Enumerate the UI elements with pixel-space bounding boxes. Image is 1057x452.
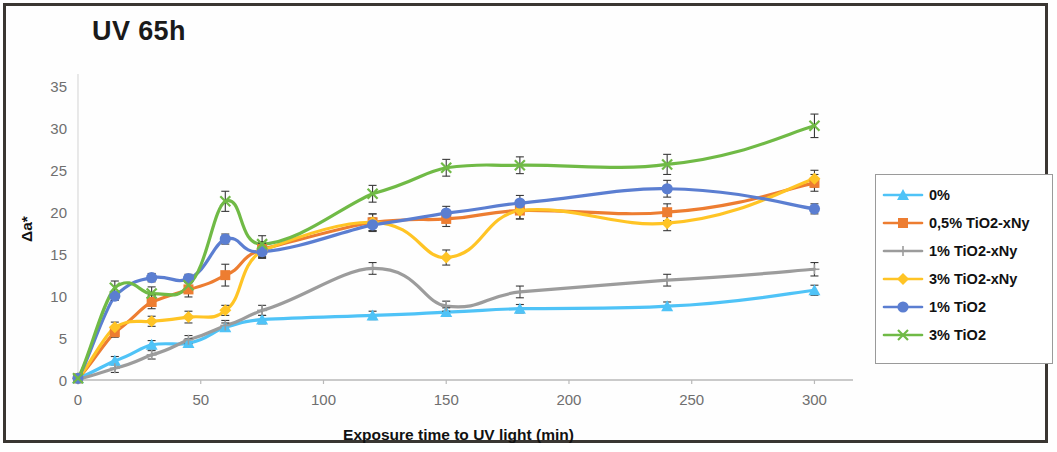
y-axis-tick-label: 20 [50, 204, 67, 221]
data-marker-diamond [146, 315, 158, 327]
data-marker-plus [809, 264, 819, 274]
data-marker-plus [662, 275, 672, 285]
error-bars [111, 285, 819, 365]
legend-item-3-tio2-xny[interactable]: 3% TiO2-xNy [882, 265, 1052, 293]
legend-item-label: 1% TiO2-xNy [929, 243, 1017, 259]
y-axis-title: Δa* [18, 215, 35, 242]
data-marker-circle [441, 207, 452, 218]
legend-item-0-5-tio2-xny[interactable]: 0,5% TiO2-xNy [882, 209, 1052, 237]
data-marker-circle [662, 183, 673, 194]
legend-marker-plus-icon [882, 243, 924, 259]
chart-frame: UV 65h 05101520253035050100150200250300E… [3, 3, 1048, 443]
y-axis-tick-label: 30 [50, 120, 67, 137]
legend-item-label: 0,5% TiO2-xNy [929, 215, 1029, 231]
x-axis-tick-label: 50 [192, 391, 209, 408]
y-axis-tick-label: 35 [50, 78, 67, 95]
legend-item-3-tio2[interactable]: 3% TiO2 [882, 321, 1052, 349]
y-axis-tick-label: 0 [59, 372, 67, 389]
data-marker-diamond [897, 273, 909, 285]
y-axis-tick-label: 15 [50, 246, 67, 263]
legend-marker-cross-icon [882, 327, 924, 343]
data-marker-circle [809, 203, 820, 214]
data-marker-diamond [182, 311, 194, 323]
series-markers [72, 284, 820, 383]
x-axis-tick-label: 100 [311, 391, 336, 408]
series-markers [72, 183, 820, 384]
data-marker-diamond [440, 252, 452, 264]
y-axis-tick-label: 25 [50, 162, 67, 179]
legend-item-label: 3% TiO2-xNy [929, 271, 1017, 287]
data-marker-circle [220, 233, 231, 244]
legend-marker-circle-icon [882, 299, 924, 315]
legend-item-0[interactable]: 0% [882, 181, 1052, 209]
data-marker-plus [147, 350, 157, 360]
legend-item-label: 1% TiO2 [929, 299, 986, 315]
y-axis-tick-label: 10 [50, 288, 67, 305]
data-marker-plus [515, 287, 525, 297]
legend-item-label: 3% TiO2 [929, 327, 986, 343]
data-marker-circle [514, 197, 525, 208]
data-marker-plus [368, 263, 378, 273]
legend-item-1-tio2[interactable]: 1% TiO2 [882, 293, 1052, 321]
y-axis-tick-label: 5 [59, 330, 67, 347]
x-axis-tick-label: 150 [434, 391, 459, 408]
x-axis-tick-label: 0 [74, 391, 82, 408]
legend-marker-square-icon [882, 215, 924, 231]
data-marker-square [898, 218, 908, 228]
x-axis-tick-label: 300 [802, 391, 827, 408]
data-marker-circle [367, 219, 378, 230]
data-marker-diamond [661, 217, 673, 229]
x-axis-tick-label: 200 [556, 391, 581, 408]
chart-canvas: UV 65h 05101520253035050100150200250300E… [6, 6, 1045, 440]
data-marker-plus [898, 246, 908, 256]
legend-marker-diamond-icon [882, 271, 924, 287]
x-axis-title: Exposure time to UV light (min) [343, 426, 574, 443]
data-marker-circle [146, 272, 157, 283]
legend-item-label: 0% [929, 187, 950, 203]
legend-marker-triangle-icon [882, 187, 924, 203]
data-marker-circle [897, 301, 908, 312]
data-marker-square [220, 270, 230, 280]
data-marker-square [662, 207, 672, 217]
legend-item-1-tio2-xny[interactable]: 1% TiO2-xNy [882, 237, 1052, 265]
chart-legend: 0%0,5% TiO2-xNy1% TiO2-xNy3% TiO2-xNy1% … [875, 174, 1053, 364]
data-marker-plus [441, 301, 451, 311]
error-bars [111, 180, 819, 300]
x-axis-tick-label: 250 [679, 391, 704, 408]
data-marker-plus [257, 305, 267, 315]
